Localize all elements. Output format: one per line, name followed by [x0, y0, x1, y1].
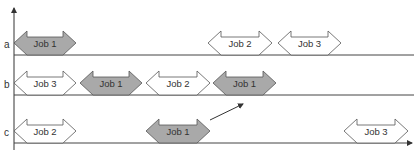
job-arrow-job1-row-a: Job 1 [14, 31, 76, 55]
job-label: Job 1 [99, 78, 122, 89]
job-label: Job 2 [228, 38, 251, 49]
job-label: Job 3 [364, 126, 387, 137]
job-label: Job 3 [298, 38, 321, 49]
job-arrow-job3-row-a: Job 3 [278, 31, 341, 55]
move-arrow [210, 104, 243, 120]
job-label: Job 1 [233, 78, 256, 89]
job-arrow-job1-row-b: Job 1 [213, 71, 276, 95]
job-arrow-job1-row-b: Job 1 [80, 71, 142, 95]
job-arrow-job1-row-c: Job 1 [146, 119, 210, 143]
row-label-c: c [4, 127, 9, 138]
job-label: Job 2 [33, 126, 56, 137]
job-label: Job 3 [33, 78, 56, 89]
row-label-a: a [4, 39, 10, 50]
job-label: Job 1 [166, 126, 189, 137]
job-schedule-diagram: Job 1Job 2Job 3Job 3Job 1Job 2Job 1Job 2… [0, 0, 414, 153]
job-arrow-job2-row-c: Job 2 [14, 119, 76, 143]
job-arrow-job3-row-b: Job 3 [14, 71, 76, 95]
job-arrow-job2-row-a: Job 2 [208, 31, 272, 55]
job-arrow-job2-row-b: Job 2 [146, 71, 210, 95]
row-label-b: b [4, 79, 10, 90]
job-arrow-job3-row-c: Job 3 [344, 119, 408, 143]
job-label: Job 2 [166, 78, 189, 89]
job-label: Job 1 [33, 38, 56, 49]
